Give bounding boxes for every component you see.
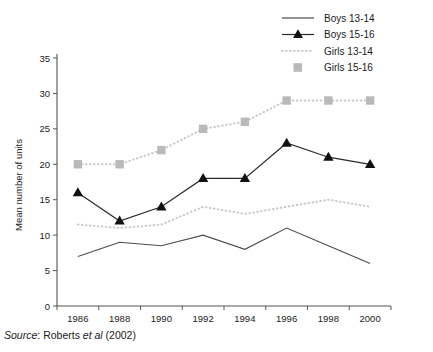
chart-axes	[53, 54, 391, 310]
y-tick-label: 0	[45, 301, 50, 312]
data-point-square	[74, 160, 82, 168]
series-line-girls-15-16	[78, 101, 370, 165]
x-tick-label: 1998	[318, 313, 339, 324]
y-tick-label: 20	[39, 159, 50, 170]
data-point-triangle	[240, 173, 250, 182]
chart-plot-area	[73, 96, 376, 263]
legend-item: Boys 13-14	[282, 13, 375, 24]
y-tick-label: 5	[45, 265, 50, 276]
source-etal: et al	[83, 329, 103, 341]
line-triangle-swatch-icon	[293, 29, 303, 38]
source-caption: Source: Roberts et al (2002)	[4, 329, 136, 341]
data-point-square	[115, 160, 123, 168]
y-tick-label: 30	[39, 88, 50, 99]
x-tick-label: 1992	[193, 313, 214, 324]
line-chart-canvas: 05101520253035 1986198819901992199419961…	[0, 0, 433, 330]
data-point-square	[324, 96, 332, 104]
legend-item: Girls 13-14	[282, 46, 373, 57]
y-tick-label: 10	[39, 230, 50, 241]
y-axis-title: Mean number of units	[13, 139, 24, 231]
source-prefix: Source	[4, 329, 37, 341]
data-point-triangle	[73, 187, 83, 196]
chart-legend: Boys 13-14Boys 15-16Girls 13-14Girls 15-…	[282, 13, 375, 74]
data-point-square	[199, 125, 207, 133]
legend-item-label: Girls 13-14	[324, 46, 373, 57]
legend-item-label: Girls 15-16	[324, 62, 373, 73]
x-tick-label: 1988	[109, 313, 130, 324]
legend-item-label: Boys 15-16	[324, 29, 375, 40]
source-year: (2002)	[103, 329, 136, 341]
data-point-triangle	[156, 201, 166, 210]
x-tick-label: 1994	[234, 313, 255, 324]
y-tick-label: 15	[39, 194, 50, 205]
series-line-boys-15-16	[78, 143, 370, 221]
data-point-square	[282, 96, 290, 104]
data-point-triangle	[198, 173, 208, 182]
x-tick-label: 1990	[151, 313, 172, 324]
y-tick-label: 35	[39, 53, 50, 64]
data-point-square	[157, 146, 165, 154]
y-tick-labels: 05101520253035	[39, 53, 50, 312]
y-tick-label: 25	[39, 123, 50, 134]
data-point-triangle	[281, 138, 291, 147]
legend-item: Girls 15-16	[294, 62, 374, 73]
gray-square-swatch-icon	[294, 63, 303, 72]
series-line-boys-13-14	[78, 228, 370, 263]
chart-figure: 05101520253035 1986198819901992199419961…	[0, 0, 433, 352]
data-point-square	[241, 118, 249, 126]
axis-lines	[57, 54, 391, 306]
legend-item: Boys 15-16	[282, 29, 375, 40]
data-point-square	[366, 96, 374, 104]
x-tick-labels: 19861988199019921994199619982000	[67, 313, 380, 324]
x-tick-label: 2000	[360, 313, 381, 324]
legend-item-label: Boys 13-14	[324, 13, 375, 24]
x-tick-label: 1996	[276, 313, 297, 324]
source-author: Roberts	[43, 329, 83, 341]
x-tick-label: 1986	[67, 313, 88, 324]
